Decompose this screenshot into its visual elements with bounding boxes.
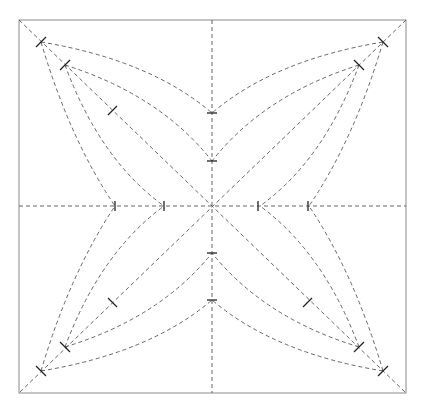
arc-bl-inner-left: [65, 206, 164, 347]
tick-mark: [303, 298, 312, 307]
arc-bl-outer-left: [41, 206, 115, 371]
arc-bl-inner-bottom: [65, 253, 212, 347]
arc-br-inner-bottom: [212, 253, 359, 347]
arc-br-outer-right: [309, 206, 383, 371]
arc-tl-inner-top: [65, 65, 212, 161]
arc-tl-inner-left: [65, 65, 164, 206]
arc-tl-outer-left: [41, 42, 115, 206]
tick-mark: [60, 342, 70, 352]
arc-br-inner-right: [260, 206, 359, 347]
arc-tr-outer-top: [212, 42, 383, 113]
arc-br-outer-bottom: [212, 300, 383, 371]
arc-tr-inner-right: [260, 65, 359, 206]
arc-bl-outer-bottom: [41, 300, 212, 371]
tick-mark: [36, 37, 46, 47]
tick-mark: [36, 366, 46, 376]
crease-pattern-diagram: [0, 0, 422, 406]
arc-tl-outer-top: [41, 42, 212, 113]
arc-tr-outer-right: [309, 42, 383, 206]
arc-tr-inner-top: [212, 65, 359, 161]
